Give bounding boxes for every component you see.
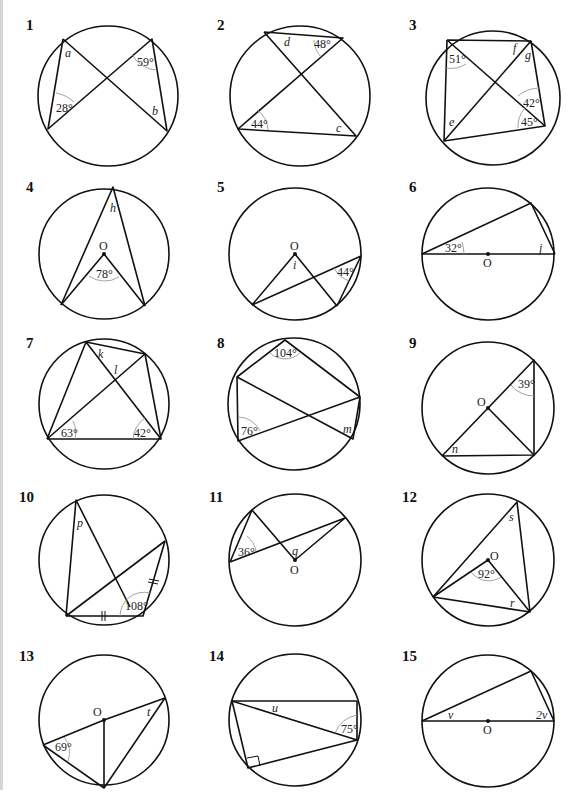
angle-label-l: l — [114, 363, 118, 377]
angle-label-i: i — [293, 258, 296, 272]
question-number: 7 — [26, 335, 34, 351]
center-label-o: O — [483, 256, 492, 270]
angle-label-n: n — [452, 442, 458, 456]
angle-label-28: 28° — [56, 101, 73, 115]
question-number: 12 — [402, 489, 417, 505]
question-number: 5 — [217, 179, 225, 195]
angle-label-78: 78° — [96, 267, 113, 281]
angle-label-36: 36° — [238, 545, 255, 559]
question-2: 2 d 48° 44° c — [217, 17, 370, 166]
question-13: 13 O t 69° — [19, 648, 169, 788]
center-label-o: O — [490, 549, 499, 563]
angle-label-59: 59° — [137, 55, 154, 69]
angle-label-j: j — [537, 241, 543, 255]
question-number: 1 — [26, 17, 34, 33]
angle-label-r: r — [510, 596, 515, 610]
angle-label-c: c — [336, 121, 342, 135]
angle-label-t: t — [147, 705, 151, 719]
center-label-o: O — [290, 239, 299, 253]
angle-label-b: b — [152, 104, 158, 118]
question-15: 15 v O 2v — [402, 648, 554, 787]
angle-label-f: f — [513, 41, 518, 55]
question-9: 9 39° O n — [409, 335, 554, 474]
angle-label-108: 108° — [125, 599, 148, 613]
question-number: 10 — [19, 489, 34, 505]
question-number: 9 — [409, 335, 417, 351]
angle-label-e: e — [449, 115, 455, 129]
question-5: 5 O i 44° — [217, 179, 361, 320]
angle-label-69: 69° — [55, 740, 72, 754]
angle-label-39: 39° — [518, 377, 535, 391]
angle-label-44: 44° — [251, 117, 268, 131]
angle-label-h: h — [110, 201, 116, 215]
question-12: 12 s O 92° r — [402, 489, 554, 626]
question-6: 6 32° O j — [409, 179, 555, 320]
question-7: 7 k l 63° 42° — [26, 335, 169, 469]
center-label-o: O — [99, 239, 108, 253]
angle-label-k: k — [98, 347, 104, 361]
angle-label-42: 42° — [134, 426, 151, 440]
center-label-o: O — [483, 723, 492, 737]
question-number: 4 — [26, 179, 34, 195]
question-10: 10 p 108° — [19, 489, 169, 625]
question-8: 8 104° 76° m — [217, 335, 360, 470]
question-11: 11 36° q O — [209, 489, 361, 626]
angle-label-u: u — [272, 701, 278, 715]
center-label-o: O — [477, 395, 486, 409]
question-number: 3 — [409, 17, 417, 33]
question-3: 3 51° f g 42° 45° e — [409, 17, 560, 165]
question-number: 13 — [19, 648, 34, 664]
worksheet-diagrams: 1 a 28° 59° b 2 d 48° 44° c 3 51° f g 42… — [0, 0, 572, 801]
angle-label-p: p — [76, 516, 83, 530]
angle-label-q: q — [292, 544, 298, 558]
angle-label-g: g — [525, 48, 531, 62]
question-14: 14 u 75° — [209, 648, 361, 786]
angle-label-42: 42° — [523, 96, 540, 110]
angle-label-d: d — [284, 35, 291, 49]
angle-label-92: 92° — [478, 567, 495, 581]
angle-label-76: 76° — [241, 424, 258, 438]
angle-label-v: v — [448, 708, 454, 722]
center-label-o: O — [290, 563, 299, 577]
angle-label-a: a — [65, 46, 71, 60]
angle-label-104: 104° — [274, 346, 297, 360]
question-1: 1 a 28° 59° b — [26, 17, 178, 166]
question-number: 14 — [209, 648, 225, 664]
question-number: 6 — [409, 179, 417, 195]
angle-label-63: 63° — [61, 426, 78, 440]
angle-label-2v: 2v — [536, 708, 548, 722]
question-number: 15 — [402, 648, 417, 664]
angle-label-s: s — [509, 510, 514, 524]
center-label-o: O — [93, 705, 102, 719]
angle-label-45: 45° — [521, 115, 538, 129]
angle-label-51: 51° — [449, 52, 466, 66]
question-4: 4 h O 78° — [26, 179, 169, 319]
question-number: 2 — [217, 17, 225, 33]
angle-label-44: 44° — [337, 265, 354, 279]
angle-label-m: m — [343, 422, 352, 436]
angle-label-32: 32° — [445, 241, 462, 255]
angle-label-75: 75° — [341, 722, 358, 736]
question-number: 11 — [209, 489, 223, 505]
question-number: 8 — [217, 335, 225, 351]
angle-label-48: 48° — [314, 37, 331, 51]
